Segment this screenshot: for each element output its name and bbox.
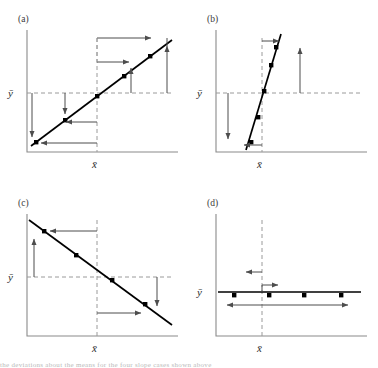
panel-c-xlabel: x̄	[91, 342, 97, 354]
panel-c-point	[42, 229, 46, 233]
panel-d-point	[339, 293, 343, 297]
panel-b-point	[256, 115, 260, 119]
panel-c-label: (c)	[18, 198, 29, 209]
panel-d-xlabel: x̄	[256, 342, 262, 354]
panel-c-point	[110, 278, 114, 282]
panel-b-point	[249, 140, 253, 144]
panel-c-point	[143, 302, 147, 306]
panel-d-point	[232, 293, 236, 297]
panel-b-point	[269, 63, 273, 67]
panel-b-point	[274, 45, 278, 49]
panel-d-label: (d)	[207, 198, 218, 209]
panel-a-point	[122, 74, 126, 78]
panel-a-point	[95, 94, 99, 98]
panel-b-xlabel: x̄	[256, 158, 262, 170]
caption-remnant: the deviations about the means for the f…	[0, 361, 378, 368]
panel-c-point	[74, 253, 78, 257]
regression-deviation-figure: (a) ȳ x̄ (b)	[0, 0, 378, 368]
panel-b-label: (b)	[207, 14, 218, 25]
panel-a-xlabel: x̄	[91, 158, 97, 170]
panel-d-point	[302, 293, 306, 297]
panel-d-point	[267, 293, 271, 297]
panel-a-point	[34, 140, 38, 144]
panel-a-label: (a)	[18, 14, 29, 25]
figure-background	[0, 0, 378, 368]
panel-a-point	[148, 54, 152, 58]
panel-b-point	[262, 89, 266, 93]
